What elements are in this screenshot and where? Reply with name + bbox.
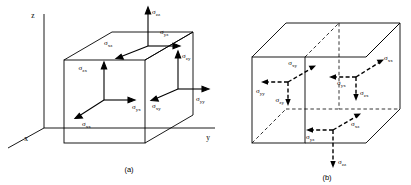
sigma-yx-arrowhead bbox=[128, 97, 135, 102]
sigma-xy-arrowhead bbox=[151, 96, 158, 101]
label-sigma-yx: σyx bbox=[132, 103, 141, 112]
axis-y-label: y bbox=[206, 133, 210, 142]
panel-a-top-triad bbox=[116, 7, 180, 59]
sigma-zy-arrowhead bbox=[285, 99, 290, 106]
label-sigma-zz: σzz bbox=[152, 8, 161, 17]
sigma-yx-arrowhead bbox=[329, 74, 336, 79]
label-sigma-zz: σzz bbox=[338, 158, 347, 167]
panel-b-caption: (b) bbox=[322, 173, 332, 182]
panel-a-right-triad bbox=[151, 51, 209, 101]
panel-b-top-face bbox=[252, 23, 400, 57]
panel-b-hidden-edges bbox=[252, 23, 400, 143]
global-axes bbox=[8, 14, 215, 148]
sigma-xx-arrowhead bbox=[377, 60, 384, 65]
label-sigma-xz: σxz bbox=[351, 120, 360, 129]
panel-a-labels: σzz σyz σxz σzx σyx σxx σzy σxy σyy bbox=[78, 8, 205, 129]
axis-x-label: x bbox=[24, 134, 28, 143]
panel-a-caption: (a) bbox=[124, 165, 134, 174]
sigma-xx-shaft bbox=[79, 100, 104, 116]
label-sigma-zx: σzx bbox=[360, 89, 369, 98]
stress-tensor-figure: z x y bbox=[0, 0, 411, 185]
sigma-xy-shaft bbox=[155, 89, 178, 99]
panel-a-right-face bbox=[145, 32, 193, 143]
panel-b-hidden-bottom-diagonal bbox=[252, 109, 286, 143]
sigma-zz-arrowhead bbox=[145, 7, 150, 14]
label-sigma-yz: σyz bbox=[160, 28, 169, 37]
label-sigma-xy: σxy bbox=[152, 102, 161, 111]
axis-z-label: z bbox=[31, 11, 35, 20]
sigma-xz-shaft bbox=[120, 46, 148, 57]
panel-b-box-edges bbox=[252, 23, 400, 143]
sigma-zx-arrowhead bbox=[353, 94, 358, 101]
panel-b-right-face bbox=[366, 23, 400, 143]
sigma-xz-arrowhead bbox=[354, 114, 361, 119]
label-sigma-zy: σzy bbox=[275, 96, 284, 105]
label-sigma-yy: σyy bbox=[256, 87, 265, 96]
panel-b-bottom-triad bbox=[310, 116, 357, 164]
label-sigma-zx: σzx bbox=[78, 64, 87, 73]
panel-a: σzz σyz σxz σzx σyx σxx σzy σxy σyy (a) bbox=[64, 7, 209, 174]
panel-b-labels: σxy σyy σzy σxx σyx σzx σxz σyz σzz bbox=[256, 54, 393, 167]
label-sigma-xy: σxy bbox=[288, 59, 297, 68]
sigma-yy-arrowhead bbox=[202, 86, 209, 91]
label-sigma-yy: σyy bbox=[196, 95, 205, 104]
panel-b-hidden-top-diagonal bbox=[305, 23, 339, 57]
sigma-xy-arrowhead bbox=[309, 66, 316, 71]
sigma-xy-shaft bbox=[288, 68, 312, 82]
label-sigma-zy: σzy bbox=[182, 52, 191, 61]
sigma-zx-arrowhead bbox=[101, 62, 106, 69]
panel-b: σxy σyy σzy σxx σyx σzx σxz σyz σzz (b) bbox=[252, 23, 400, 182]
label-sigma-yz: σyz bbox=[306, 133, 315, 142]
label-sigma-yx: σyx bbox=[337, 79, 346, 88]
sigma-zy-arrowhead bbox=[175, 51, 180, 58]
sigma-zz-arrowhead bbox=[330, 161, 335, 168]
sigma-yz-arrowhead bbox=[306, 127, 313, 132]
sigma-yy-arrowhead bbox=[261, 79, 268, 84]
sigma-xx-shaft bbox=[356, 62, 380, 77]
sigma-yz-arrowhead bbox=[173, 43, 180, 48]
label-sigma-xx: σxx bbox=[384, 54, 393, 63]
sigma-xz-arrowhead bbox=[116, 54, 123, 59]
label-sigma-xx: σxx bbox=[82, 120, 91, 129]
label-sigma-xz: σxz bbox=[104, 39, 113, 48]
figure-canvas: z x y bbox=[0, 0, 411, 185]
